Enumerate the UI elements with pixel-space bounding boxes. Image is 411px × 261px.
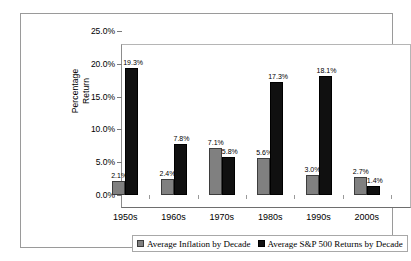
bar-value-label: 19.3% — [120, 59, 146, 66]
x-axis-label-1990s: 1990s — [296, 212, 342, 222]
x-axis-label-1950s: 1950s — [102, 212, 148, 222]
y-tick-label: 25.0% — [73, 26, 115, 36]
legend-entry[interactable]: Average S&P 500 Returns by Decade — [258, 239, 403, 249]
y-tick-mark — [117, 195, 122, 196]
x-tick-mark — [149, 195, 150, 199]
legend-entry[interactable]: Average Inflation by Decade — [137, 239, 251, 249]
y-tick-label: 20.0% — [73, 59, 115, 69]
x-tick-mark — [391, 195, 392, 199]
bar-group: 7.1%5.8% — [209, 31, 235, 195]
bar-group: 3.0%18.1% — [306, 31, 332, 195]
bar-value-label: 5.8% — [217, 148, 243, 155]
y-tick-label: 5.0% — [73, 157, 115, 167]
bar-inflation[interactable]: 5.6% — [257, 158, 270, 195]
bar-group: 2.1%19.3% — [112, 31, 138, 195]
bar-sp500[interactable]: 5.8% — [222, 157, 235, 195]
x-axis-label-1970s: 1970s — [199, 212, 245, 222]
bar-value-label: 1.4% — [362, 177, 388, 184]
bar-sp500[interactable]: 7.8% — [174, 144, 187, 195]
bar-value-label: 18.1% — [314, 67, 340, 74]
bar-group: 2.7%1.4% — [354, 31, 380, 195]
bar-group: 5.6%17.3% — [257, 31, 283, 195]
bar-sp500[interactable]: 1.4% — [367, 186, 380, 195]
bar-sp500[interactable]: 19.3% — [125, 68, 138, 195]
bar-sp500[interactable]: 17.3% — [270, 82, 283, 195]
y-tick-label: 15.0% — [73, 92, 115, 102]
x-axis-label-2000s: 2000s — [344, 212, 390, 222]
x-tick-mark — [294, 195, 295, 199]
bar-inflation[interactable]: 2.1% — [112, 181, 125, 195]
bar-value-label: 17.3% — [265, 73, 291, 80]
bar-group: 2.4%7.8% — [161, 31, 187, 195]
bar-value-label: 7.8% — [169, 135, 195, 142]
bar-inflation[interactable]: 3.0% — [306, 175, 319, 195]
legend-label: Average Inflation by Decade — [147, 239, 251, 249]
x-axis-label-1960s: 1960s — [151, 212, 197, 222]
y-tick-label: 10.0% — [73, 124, 115, 134]
bar-value-label: 2.7% — [348, 168, 374, 175]
bar-sp500[interactable]: 18.1% — [319, 76, 332, 195]
bar-inflation[interactable]: 7.1% — [209, 148, 222, 195]
y-tick-label: 0.0% — [73, 190, 115, 200]
x-tick-mark — [343, 195, 344, 199]
chart-legend: Average Inflation by DecadeAverage S&P 5… — [132, 235, 408, 252]
x-tick-mark — [246, 195, 247, 199]
x-tick-mark — [198, 195, 199, 199]
legend-swatch-inflation-icon — [137, 240, 144, 247]
bar-inflation[interactable]: 2.4% — [161, 179, 174, 195]
chart-frame: Percentage Return 0.0%5.0%10.0%15.0%20.0… — [20, 13, 393, 248]
bar-value-label: 7.1% — [203, 139, 229, 146]
legend-swatch-sp500-icon — [258, 240, 265, 247]
legend-label: Average S&P 500 Returns by Decade — [268, 239, 403, 249]
x-axis-label-1980s: 1980s — [247, 212, 293, 222]
